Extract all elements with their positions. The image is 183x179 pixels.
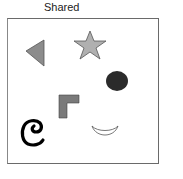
- curl-glyph-icon: [22, 121, 43, 145]
- crescent-icon: [92, 126, 118, 135]
- star-icon: [74, 31, 106, 59]
- triangle-icon: [26, 40, 44, 66]
- shapes-canvas: [0, 0, 183, 179]
- l-shape-icon: [59, 95, 79, 118]
- circle-icon: [106, 71, 128, 91]
